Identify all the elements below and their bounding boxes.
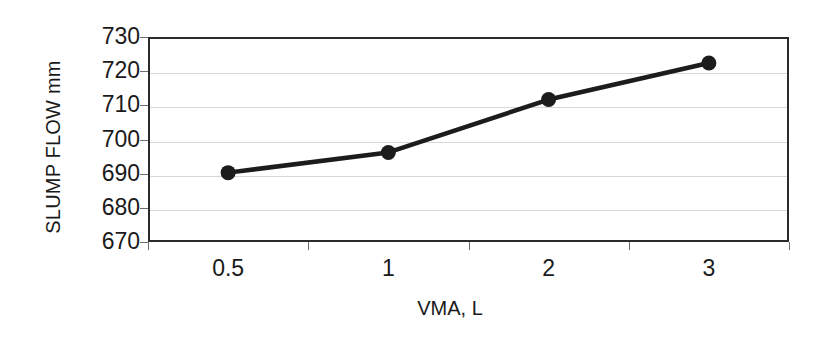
y-axis-tick-mark <box>140 37 148 38</box>
x-axis-tick-label: 2 <box>489 256 609 280</box>
y-axis-tick-mark <box>140 140 148 141</box>
x-axis-tick-mark <box>469 242 470 250</box>
y-axis-tick-mark <box>140 208 148 209</box>
chart-figure: SLUMP FLOW mm 730720710700690680670 0.51… <box>0 0 829 344</box>
data-point-marker <box>701 55 716 70</box>
x-axis-tick-label: 0.5 <box>168 256 288 280</box>
data-point-marker <box>221 165 236 180</box>
y-axis-tick-labels: 730720710700690680670 <box>58 0 140 344</box>
y-axis-tick-label: 710 <box>58 93 140 116</box>
y-axis-tick-label: 680 <box>58 196 140 219</box>
y-axis-tick-mark <box>140 242 148 243</box>
x-axis-tick-label: 3 <box>649 256 769 280</box>
y-axis-tick-label: 730 <box>58 25 140 48</box>
x-axis-title: VMA, L <box>0 296 829 320</box>
data-series-layer <box>148 37 789 242</box>
y-axis-tick-label: 700 <box>58 128 140 151</box>
x-axis-tick-label: 1 <box>328 256 448 280</box>
data-point-marker <box>381 145 396 160</box>
series-markers <box>221 55 717 180</box>
x-axis-tick-mark <box>148 242 149 250</box>
y-axis-tick-mark <box>140 174 148 175</box>
series-line <box>228 63 709 173</box>
y-axis-tick-mark <box>140 105 148 106</box>
x-axis-tick-mark <box>789 242 790 250</box>
y-axis-tick-mark <box>140 71 148 72</box>
data-point-marker <box>541 92 556 107</box>
x-axis-tick-mark <box>308 242 309 250</box>
y-axis-tick-label: 690 <box>58 162 140 185</box>
y-axis-tick-label: 670 <box>58 230 140 253</box>
y-axis-tick-label: 720 <box>58 59 140 82</box>
x-axis-tick-mark <box>629 242 630 250</box>
